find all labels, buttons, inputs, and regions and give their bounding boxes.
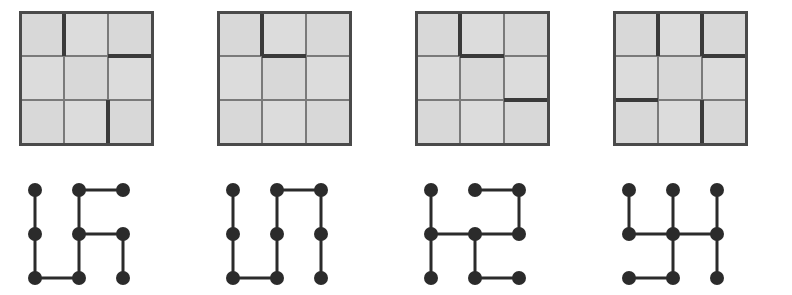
maze-cell [460,12,504,56]
maze-cell [416,56,460,100]
maze-cell [614,56,658,100]
graph-node [270,183,284,197]
maze-cell [306,100,350,144]
maze-cell [20,100,64,144]
graph-node [468,227,482,241]
maze-cells [218,12,350,144]
maze-cells [416,12,548,144]
graph-node [666,227,680,241]
maze-cell [658,12,702,56]
graph-node [270,227,284,241]
maze-cell [658,56,702,100]
graph-holder-4 [594,165,792,295]
maze-cell [702,56,746,100]
maze-cells [20,12,152,144]
graph-node [710,271,724,285]
maze-cell [306,56,350,100]
graph-3 [396,165,594,295]
maze-grid-3 [396,0,594,165]
graph-node [424,227,438,241]
graph-holder-1 [0,165,198,295]
graph-holder-2 [198,165,396,295]
graph-node [28,227,42,241]
graph-node [710,183,724,197]
graph-node [468,183,482,197]
graph-node [314,227,328,241]
maze-cell [64,56,108,100]
maze-cell [108,100,152,144]
graph-node [512,183,526,197]
maze-cell [702,12,746,56]
maze-cell [614,100,658,144]
graph-1 [0,165,198,295]
maze-cell [416,100,460,144]
maze-holder-2 [198,0,396,165]
maze-cell [460,100,504,144]
maze-cell [64,12,108,56]
panel-3 [396,0,594,295]
graph-node [666,183,680,197]
graph-node [116,183,130,197]
maze-grid-2 [198,0,396,165]
maze-cell [416,12,460,56]
graph-node [710,227,724,241]
maze-cell [262,56,306,100]
graph-node [468,271,482,285]
graph-node [226,227,240,241]
maze-cell [460,56,504,100]
graph-node [116,271,130,285]
maze-cell [218,12,262,56]
graph-node [72,227,86,241]
maze-grid-4 [594,0,792,165]
maze-cell [218,100,262,144]
graph-node [226,183,240,197]
graph-node [28,271,42,285]
maze-cell [64,100,108,144]
graph-4 [594,165,792,295]
maze-cell [658,100,702,144]
maze-cell [262,12,306,56]
graph-node [314,271,328,285]
maze-cell [108,56,152,100]
maze-cells [614,12,746,144]
graph-node [622,183,636,197]
graph-node [72,271,86,285]
graph-node [314,183,328,197]
maze-holder-3 [396,0,594,165]
maze-grid-1 [0,0,198,165]
maze-holder-1 [0,0,198,165]
graph-node [116,227,130,241]
maze-cell [20,56,64,100]
maze-cell [504,100,548,144]
maze-holder-4 [594,0,792,165]
graph-node [28,183,42,197]
maze-cell [614,12,658,56]
maze-cell [262,100,306,144]
graph-node [622,227,636,241]
graph-node [270,271,284,285]
maze-cell [20,12,64,56]
figure-root [0,0,792,295]
graph-node [72,183,86,197]
maze-cell [218,56,262,100]
maze-cell [504,12,548,56]
maze-cell [108,12,152,56]
maze-cell [504,56,548,100]
panel-2 [198,0,396,295]
graph-2 [198,165,396,295]
graph-node [424,183,438,197]
graph-holder-3 [396,165,594,295]
graph-node [622,271,636,285]
maze-cell [702,100,746,144]
panel-1 [0,0,198,295]
graph-node [424,271,438,285]
graph-node [666,271,680,285]
maze-cell [306,12,350,56]
graph-node [512,227,526,241]
panel-4 [594,0,792,295]
graph-node [226,271,240,285]
graph-node [512,271,526,285]
